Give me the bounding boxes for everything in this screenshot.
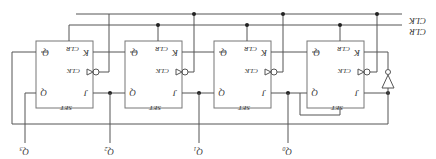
output-q2-label: Q2 [105, 146, 115, 157]
svg-text:K: K [260, 48, 268, 58]
svg-text:Q: Q [131, 48, 138, 58]
svg-text:SET: SET [330, 104, 343, 112]
output-q0-label: Q0 [283, 146, 293, 157]
svg-text:Q: Q [313, 48, 320, 58]
svg-text:CLK: CLK [244, 67, 258, 75]
svg-text:CLR: CLR [65, 45, 79, 53]
svg-text:CLR: CLR [336, 45, 350, 53]
svg-text:Q3: Q3 [20, 146, 30, 157]
svg-text:Q: Q [129, 88, 136, 98]
flip-flop-1: CLR Q K CLK Q J SET [214, 25, 277, 112]
svg-text:Q1: Q1 [194, 146, 204, 157]
svg-text:SET: SET [237, 104, 250, 112]
svg-text:CLK: CLK [337, 67, 351, 75]
clr-input-label: CLR [409, 27, 426, 37]
clk-input-label: CLK [408, 16, 426, 26]
flip-flop-0: CLR Q K CLK Q J SET [307, 25, 370, 112]
svg-text:SET: SET [59, 104, 72, 112]
output-q1-label: Q1 [194, 146, 204, 157]
svg-text:Q0: Q0 [283, 146, 293, 157]
flip-flop-2: CLR Q K CLK Q J SET [125, 25, 188, 112]
svg-text:K: K [82, 48, 90, 58]
svg-text:SET: SET [148, 104, 161, 112]
svg-text:K: K [171, 48, 179, 58]
svg-text:Q: Q [311, 88, 318, 98]
svg-text:Q: Q [220, 48, 227, 58]
svg-text:K: K [353, 48, 361, 58]
counter-circuit-diagram: CLK CLR CLR Q K CLK Q J SET CLR Q K CLK … [0, 0, 436, 159]
svg-text:CLK: CLK [66, 67, 80, 75]
output-q3-label: Q3 [20, 146, 30, 157]
clock-inverter-icon [382, 52, 394, 124]
svg-text:CLR: CLR [243, 45, 257, 53]
svg-text:Q: Q [40, 88, 47, 98]
svg-text:Q: Q [42, 48, 49, 58]
svg-text:Q: Q [218, 88, 225, 98]
svg-text:CLR: CLR [154, 45, 168, 53]
svg-text:Q2: Q2 [105, 146, 115, 157]
flip-flop-3: CLR Q K CLK Q J SET [36, 25, 99, 112]
clr-junction [338, 23, 342, 27]
svg-text:CLK: CLK [155, 67, 169, 75]
